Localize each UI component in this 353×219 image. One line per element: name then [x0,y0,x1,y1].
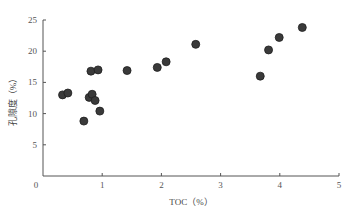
data-point [192,40,200,48]
data-point [298,23,306,31]
data-point [64,89,72,97]
y-tick-label: 5 [33,140,38,150]
x-tick-label: 5 [337,180,342,190]
data-point [162,58,170,66]
data-point [96,107,104,115]
y-tick-label: 20 [28,46,38,56]
y-tick-label: 15 [28,77,38,87]
data-point [123,67,131,75]
x-tick-label: 4 [278,180,283,190]
data-point [265,46,273,54]
y-axis-title: 孔隙度（%） [7,74,18,127]
data-point [256,72,264,80]
data-point [80,117,88,125]
data-point [153,63,161,71]
axes: 0510152025 12345 [28,15,342,190]
scatter-chart: 0510152025 12345 TOC（%） 孔隙度（%） [0,0,353,219]
y-tick-label: 0 [34,180,39,190]
x-axis-title: TOC（%） [169,197,212,207]
y-tick-label: 10 [28,109,38,119]
x-tick-label: 2 [159,180,164,190]
data-point [275,33,283,41]
x-tick-label: 3 [218,180,223,190]
x-tick-label: 1 [100,180,105,190]
y-tick-label: 25 [28,15,38,25]
data-points [59,23,307,125]
data-point [87,67,95,75]
data-point [94,66,102,74]
data-point [91,96,99,104]
